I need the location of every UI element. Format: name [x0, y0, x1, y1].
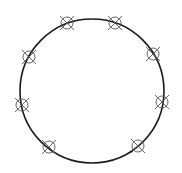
background	[0, 0, 182, 173]
circle-diagram	[0, 0, 182, 173]
